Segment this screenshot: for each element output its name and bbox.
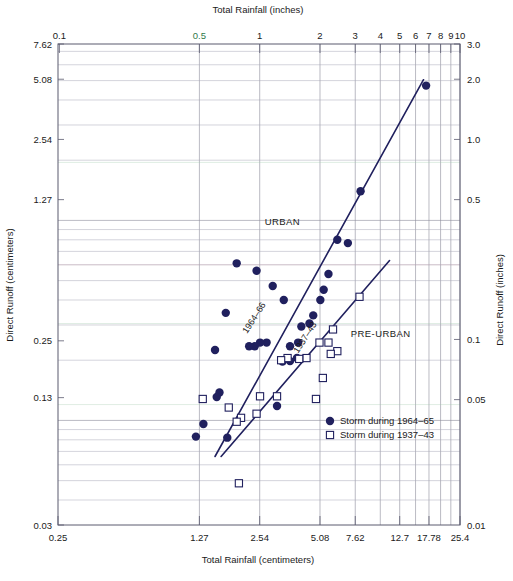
data-point: [245, 342, 253, 350]
legend-marker: [326, 431, 333, 438]
data-point: [296, 355, 303, 362]
x-tick-label-top: 6: [413, 30, 418, 41]
data-point: [324, 270, 332, 278]
plot-annotation: URBAN: [265, 216, 300, 227]
y-tick-label-right: 2.0: [467, 74, 480, 85]
data-point: [232, 259, 240, 267]
x-tick-label-bottom: 12.7: [390, 532, 409, 543]
y-tick-label-right: 3.0: [467, 39, 480, 50]
y-tick-label-left: 1.27: [34, 194, 53, 205]
legend-marker: [326, 417, 334, 425]
data-point: [329, 326, 336, 333]
x-tick-label-bottom: 5.08: [311, 532, 330, 543]
x-tick-label-top: 9: [448, 30, 453, 41]
data-point: [356, 293, 363, 300]
data-point: [327, 350, 334, 357]
scatter-plot-svg: 0.10.5123456789100.251.272.545.087.6212.…: [0, 0, 513, 581]
y-tick-label-right: 0.01: [467, 520, 486, 531]
data-point: [344, 239, 352, 247]
y-tick-label-left: 0.13: [34, 392, 53, 403]
x-tick-label-top: 10: [455, 30, 466, 41]
x-tick-label-bottom: 1.27: [190, 532, 209, 543]
x-tick-label-top: 2: [317, 30, 322, 41]
top-axis-title: Total Rainfall (inches): [213, 4, 304, 15]
data-point: [199, 395, 206, 402]
data-point: [316, 339, 323, 346]
x-tick-label-bottom: 7.62: [346, 532, 365, 543]
plot-annotation: PRE-URBAN: [351, 328, 411, 339]
x-tick-label-top: 0.5: [193, 30, 206, 41]
data-point: [199, 420, 207, 428]
x-tick-label-top: 8: [438, 30, 443, 41]
data-point: [213, 393, 221, 401]
chart-figure: 0.10.5123456789100.251.272.545.087.6212.…: [0, 0, 513, 581]
data-point: [325, 339, 332, 346]
data-point: [235, 480, 242, 487]
data-point: [233, 418, 240, 425]
data-point: [303, 354, 310, 361]
data-point: [312, 395, 319, 402]
x-tick-label-top: 4: [378, 30, 383, 41]
y-tick-label-left: 0.25: [34, 335, 53, 346]
x-tick-label-top: 3: [353, 30, 358, 41]
data-point: [192, 432, 200, 440]
x-tick-label-bottom: 2.54: [250, 532, 269, 543]
data-point: [273, 393, 280, 400]
data-point: [316, 296, 324, 304]
x-tick-label-top: 5: [397, 30, 402, 41]
data-point: [309, 311, 317, 319]
x-tick-label-top: 1: [257, 30, 262, 41]
bottom-axis-title: Total Rainfall (centimeters): [202, 554, 314, 565]
x-tick-label-bottom: 17.78: [417, 532, 441, 543]
y-tick-label-left: 2.54: [34, 134, 53, 145]
data-point: [319, 286, 327, 294]
left-axis-title: Direct Runoff (centimeters): [4, 228, 15, 341]
data-point: [222, 309, 230, 317]
data-point: [225, 404, 232, 411]
legend-label: Storm during 1937–43: [340, 429, 434, 440]
y-tick-label-left: 7.62: [34, 39, 53, 50]
x-tick-label-bottom: 0.25: [49, 532, 68, 543]
data-point: [211, 346, 219, 354]
right-axis-title: Direct Runoff (inches): [494, 254, 505, 346]
data-point: [252, 267, 260, 275]
y-tick-label-right: 0.05: [467, 394, 486, 405]
data-point: [356, 187, 364, 195]
data-point: [319, 374, 326, 381]
x-tick-label-bottom: 25.4: [451, 532, 470, 543]
x-tick-label-top: 7: [426, 30, 431, 41]
data-point: [280, 296, 288, 304]
data-point: [269, 282, 277, 290]
y-tick-label-right: 0.5: [467, 194, 480, 205]
y-tick-label-left: 0.03: [34, 520, 53, 531]
y-tick-label-right: 0.1: [467, 334, 480, 345]
data-point: [256, 393, 263, 400]
chart-background: [0, 0, 513, 581]
legend-label: Storm during 1964–65: [340, 415, 434, 426]
data-point: [253, 410, 260, 417]
data-point: [273, 402, 281, 410]
y-tick-label-right: 1.0: [467, 134, 480, 145]
data-point: [278, 357, 285, 364]
data-point: [333, 236, 341, 244]
y-tick-label-left: 5.08: [34, 74, 53, 85]
data-point: [223, 433, 231, 441]
data-point: [422, 81, 430, 89]
x-tick-label-top: 0.1: [53, 30, 66, 41]
